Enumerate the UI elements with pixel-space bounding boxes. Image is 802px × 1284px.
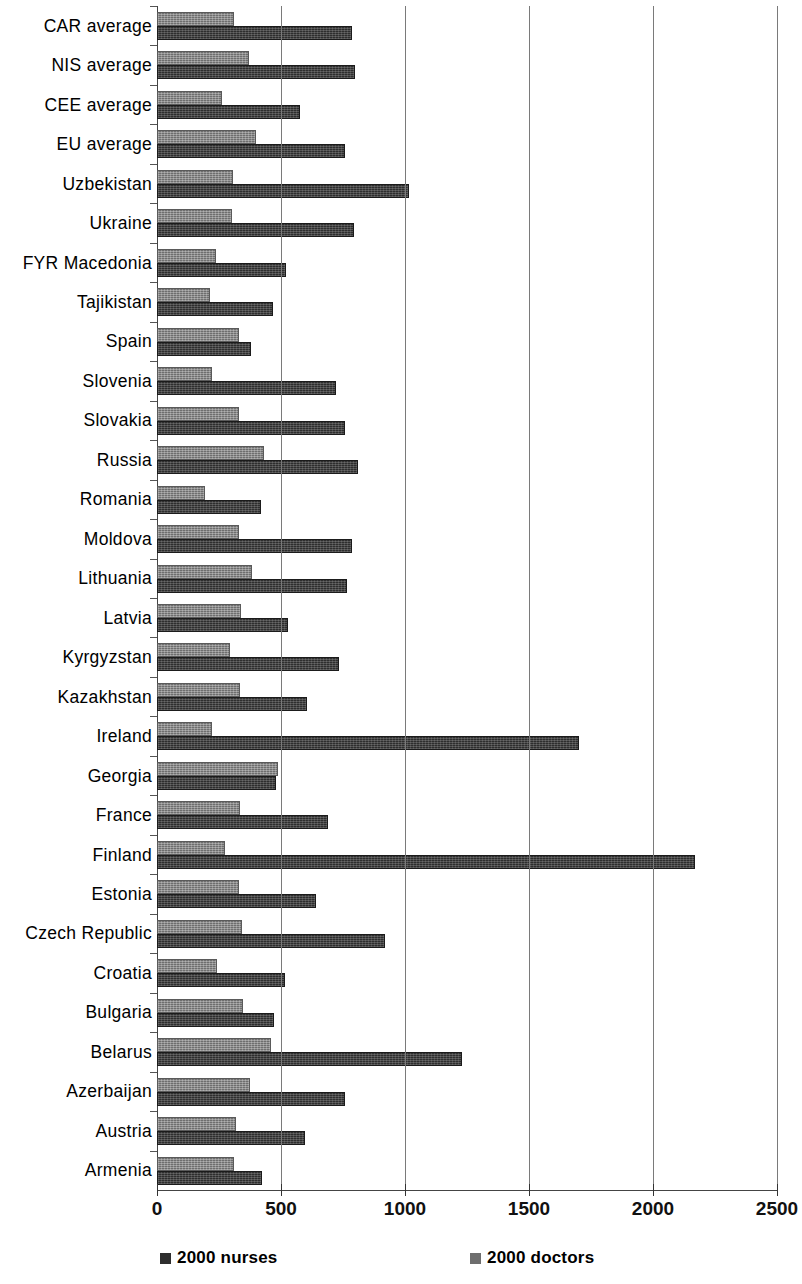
bar-doctors [157, 130, 256, 144]
x-tick-mark [777, 1184, 778, 1196]
y-tick-mark [150, 559, 157, 560]
y-tick-mark [150, 85, 157, 86]
bar-nurses [157, 500, 261, 514]
x-gridline [405, 6, 406, 1190]
category-label: Slovenia [2, 371, 152, 392]
category-label: Croatia [2, 963, 152, 984]
bar-doctors [157, 91, 222, 105]
y-tick-mark [150, 45, 157, 46]
y-tick-mark [150, 716, 157, 717]
category-label: Uzbekistan [2, 174, 152, 195]
bar-doctors [157, 880, 239, 894]
y-tick-mark [150, 243, 157, 244]
category-label: Kyrgyzstan [2, 647, 152, 668]
bar-doctors [157, 643, 230, 657]
bar-doctors [157, 1117, 236, 1131]
y-tick-mark [150, 874, 157, 875]
bar-doctors [157, 170, 233, 184]
legend-label-nurses: 2000 nurses [177, 1248, 278, 1268]
bar-nurses [157, 894, 316, 908]
y-tick-mark [150, 440, 157, 441]
bar-nurses [157, 105, 300, 119]
x-tick-label: 0 [117, 1198, 197, 1220]
y-tick-mark [150, 756, 157, 757]
bar-nurses [157, 539, 352, 553]
category-label: Kazakhstan [2, 687, 152, 708]
bar-nurses [157, 973, 285, 987]
bar-doctors [157, 565, 252, 579]
bar-nurses [157, 223, 354, 237]
x-tick-label: 1500 [489, 1198, 569, 1220]
bar-doctors [157, 486, 205, 500]
x-tick-label: 2000 [613, 1198, 693, 1220]
bar-nurses [157, 381, 336, 395]
x-tick-mark [157, 1184, 158, 1196]
x-tick-mark [653, 1184, 654, 1196]
bar-nurses [157, 815, 328, 829]
category-label: CEE average [2, 95, 152, 116]
bar-doctors [157, 525, 239, 539]
category-label: Estonia [2, 884, 152, 905]
bar-doctors [157, 1038, 271, 1052]
bar-nurses [157, 26, 352, 40]
category-label: Spain [2, 331, 152, 352]
bar-doctors [157, 1078, 250, 1092]
category-label: CAR average [2, 16, 152, 37]
bar-nurses [157, 460, 358, 474]
y-tick-mark [150, 1111, 157, 1112]
y-tick-mark [150, 953, 157, 954]
category-label: Bulgaria [2, 1002, 152, 1023]
legend-swatch-nurses-icon [160, 1253, 171, 1264]
plot-area [157, 6, 777, 1190]
y-tick-mark [150, 637, 157, 638]
category-label: Ukraine [2, 213, 152, 234]
category-label: Finland [2, 845, 152, 866]
bar-nurses [157, 657, 339, 671]
y-tick-mark [150, 598, 157, 599]
bar-doctors [157, 762, 278, 776]
legend-entry-nurses: 2000 nurses [160, 1248, 278, 1268]
y-tick-mark [150, 914, 157, 915]
y-tick-mark [150, 203, 157, 204]
y-tick-mark [150, 124, 157, 125]
y-tick-mark [150, 401, 157, 402]
y-tick-mark [150, 361, 157, 362]
category-label: NIS average [2, 55, 152, 76]
x-tick-mark [281, 1184, 282, 1196]
x-tick-mark [405, 1184, 406, 1196]
x-gridline [777, 6, 778, 1190]
bar-nurses [157, 934, 385, 948]
category-label: Moldova [2, 529, 152, 550]
category-label: Russia [2, 450, 152, 471]
bar-nurses [157, 579, 347, 593]
bar-doctors [157, 920, 242, 934]
bar-doctors [157, 446, 264, 460]
legend-label-doctors: 2000 doctors [487, 1248, 594, 1268]
bar-doctors [157, 367, 212, 381]
y-tick-mark [150, 1072, 157, 1073]
bar-doctors [157, 249, 216, 263]
category-label: Czech Republic [2, 923, 152, 944]
legend-entry-doctors: 2000 doctors [470, 1248, 594, 1268]
category-label: Armenia [2, 1160, 152, 1181]
bar-doctors [157, 328, 239, 342]
bar-doctors [157, 841, 225, 855]
x-gridline [281, 6, 282, 1190]
bar-nurses [157, 144, 345, 158]
y-tick-mark [150, 1151, 157, 1152]
y-tick-mark [150, 677, 157, 678]
category-label: Latvia [2, 608, 152, 629]
bar-nurses [157, 342, 251, 356]
bar-nurses [157, 1092, 345, 1106]
bar-nurses [157, 1052, 462, 1066]
bar-nurses [157, 776, 276, 790]
y-tick-mark [150, 993, 157, 994]
bar-nurses [157, 302, 273, 316]
bar-nurses [157, 1013, 274, 1027]
x-gridline [529, 6, 530, 1190]
category-label: EU average [2, 134, 152, 155]
category-label: Slovakia [2, 410, 152, 431]
bar-doctors [157, 683, 240, 697]
bar-nurses [157, 736, 579, 750]
bar-nurses [157, 618, 288, 632]
